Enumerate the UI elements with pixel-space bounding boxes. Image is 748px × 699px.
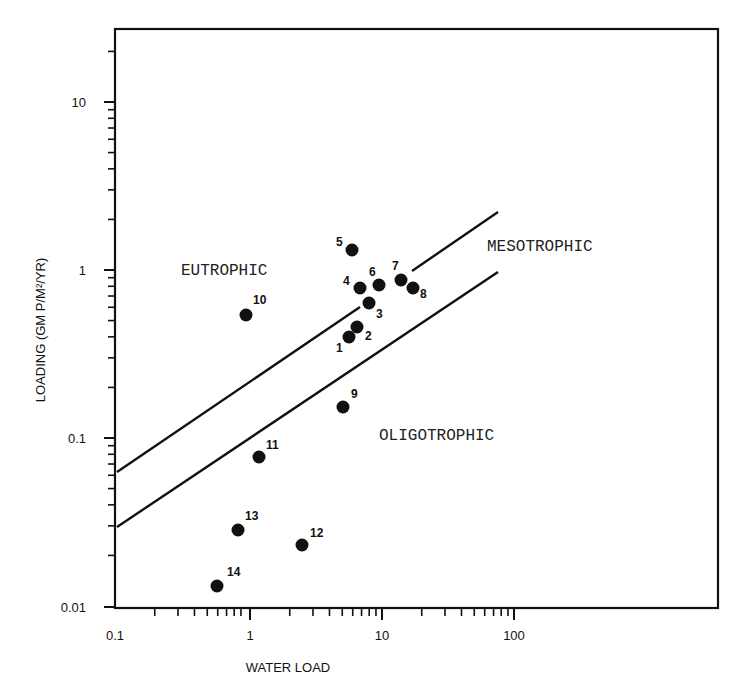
x-tick-100: 100 xyxy=(503,628,525,643)
plot-frame xyxy=(115,29,718,608)
data-point-label: 14 xyxy=(227,565,241,579)
data-point-label: 10 xyxy=(253,293,267,307)
data-point-label: 5 xyxy=(336,235,343,249)
data-point-label: 7 xyxy=(392,259,399,273)
data-point-label: 9 xyxy=(351,387,358,401)
data-point xyxy=(351,321,364,334)
lower-boundary-line xyxy=(117,272,498,527)
y-tick-1: 1 xyxy=(79,263,86,278)
y-tick-0.01: 0.01 xyxy=(61,600,86,615)
data-point-label: 13 xyxy=(245,509,259,523)
data-point-label: 12 xyxy=(310,526,324,540)
data-point xyxy=(354,282,367,295)
data-point-label: 6 xyxy=(369,265,376,279)
upper-boundary-line-right xyxy=(412,212,498,271)
data-point xyxy=(232,524,245,537)
trophic-state-chart: 10 1 0.1 0.01 0.1 1 10 100 WATER LOAD LO… xyxy=(0,0,748,699)
x-axis-title: WATER LOAD xyxy=(246,660,331,675)
mesotrophic-label: MESOTROPHIC xyxy=(487,238,593,256)
y-tick-0.1: 0.1 xyxy=(68,431,86,446)
data-point xyxy=(373,279,386,292)
boundary-lines xyxy=(117,212,498,527)
data-point-label: 3 xyxy=(376,307,383,321)
x-tick-1: 1 xyxy=(246,628,253,643)
oligotrophic-label: OLIGOTROPHIC xyxy=(379,427,494,445)
x-axis-minor-ticks xyxy=(155,608,508,616)
y-axis-title: LOADING (GM P/M²/YR) xyxy=(33,258,48,402)
eutrophic-label: EUTROPHIC xyxy=(181,262,267,280)
data-point xyxy=(407,282,420,295)
data-point xyxy=(337,401,350,414)
data-point-label: 8 xyxy=(420,287,427,301)
data-point xyxy=(253,451,266,464)
x-tick-10: 10 xyxy=(375,628,389,643)
y-axis-ticks xyxy=(104,102,115,607)
data-point-label: 4 xyxy=(343,274,350,288)
data-points: 1234567891011121314 xyxy=(211,235,428,593)
data-point xyxy=(363,297,376,310)
data-point xyxy=(346,244,359,257)
data-point xyxy=(211,580,224,593)
data-point xyxy=(395,274,408,287)
x-tick-0.1: 0.1 xyxy=(106,628,124,643)
data-point xyxy=(240,309,253,322)
y-tick-10: 10 xyxy=(72,95,86,110)
data-point-label: 11 xyxy=(266,438,279,452)
data-point-label: 2 xyxy=(365,329,372,343)
data-point xyxy=(296,539,309,552)
data-point-label: 1 xyxy=(336,341,343,355)
